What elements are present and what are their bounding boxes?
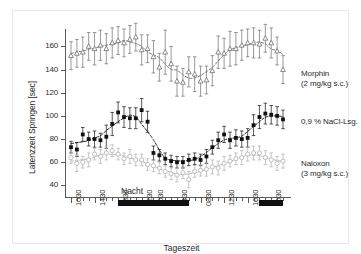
- x-tick-2230: [283, 198, 284, 201]
- x-tick-label-1230: 1230: [227, 190, 236, 206]
- x-tick-label-0830: 0830: [204, 190, 213, 206]
- x-axis-title: Tageszeit: [13, 243, 350, 253]
- night-bar-1: [118, 200, 189, 206]
- legend-naloxon: Naloxon (3 mg/kg s.c.): [301, 159, 348, 179]
- series-nacl: [69, 99, 285, 169]
- legend-naloxon-line2: (3 mg/kg s.c.): [301, 169, 348, 179]
- night-annotation-label: Nacht: [121, 186, 143, 196]
- y-tick-120: [61, 93, 65, 94]
- legend-nacl: 0,9 % NaCl-Lsg.: [301, 117, 358, 127]
- x-tick-1730: [112, 198, 113, 201]
- y-tick-label-140: 140: [32, 65, 58, 74]
- legend-naloxon-line1: Naloxon: [301, 159, 348, 169]
- x-tick-0730: [195, 198, 196, 201]
- night-bar-2: [259, 200, 283, 206]
- y-tick-60: [61, 162, 65, 163]
- legend-morphin-line1: Morphin: [301, 69, 348, 79]
- y-tick-label-40: 40: [32, 180, 58, 189]
- x-tick-1230: [224, 198, 225, 203]
- y-tick-160: [61, 46, 65, 47]
- x-tick-1330: [89, 198, 90, 201]
- x-tick-label-1030: 1030: [74, 190, 83, 206]
- legend-nacl-line1: 0,9 % NaCl-Lsg.: [301, 117, 358, 127]
- x-tick-1430: [95, 198, 96, 203]
- series-morphin: [69, 23, 286, 96]
- y-tick-40: [61, 185, 65, 186]
- y-tick-label-100: 100: [32, 111, 58, 120]
- y-axis-spine: [65, 29, 66, 197]
- y-tick-80: [61, 139, 65, 140]
- legend-morphin: Morphin (2 mg/kg s.c.): [301, 69, 348, 89]
- x-tick-1130: [218, 198, 219, 201]
- legend-morphin-line2: (2 mg/kg s.c.): [301, 79, 348, 89]
- y-tick-label-120: 120: [32, 88, 58, 97]
- y-tick-label-80: 80: [32, 134, 58, 143]
- series-naloxon: [69, 145, 285, 188]
- x-tick-1630: [248, 198, 249, 203]
- x-tick-label-1630: 1630: [251, 190, 260, 206]
- x-tick-1430: [236, 198, 237, 201]
- x-tick-0830: [201, 198, 202, 203]
- y-tick-label-160: 160: [32, 41, 58, 50]
- x-tick-1030: [71, 198, 72, 203]
- x-tick-label-1430: 1430: [98, 190, 107, 206]
- x-tick-1530: [242, 198, 243, 201]
- y-tick-label-60: 60: [32, 157, 58, 166]
- y-tick-140: [61, 70, 65, 71]
- y-tick-100: [61, 116, 65, 117]
- figure-panel: Latenzzeit Springen [sec] Tageszeit 4060…: [12, 10, 349, 244]
